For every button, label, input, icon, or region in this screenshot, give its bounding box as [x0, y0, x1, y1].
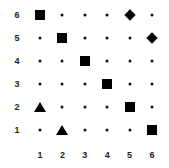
dot-marker-icon	[128, 37, 131, 40]
marker-grid-diagram: 654321123456	[0, 0, 169, 168]
dot-marker-icon	[83, 83, 86, 86]
dot-marker-icon	[151, 106, 154, 109]
dot-marker-icon	[39, 60, 42, 63]
row-label: 3	[14, 80, 19, 89]
square-marker-icon	[102, 79, 112, 89]
dot-marker-icon	[128, 83, 131, 86]
dot-marker-icon	[83, 14, 86, 17]
dot-marker-icon	[39, 37, 42, 40]
dot-marker-icon	[83, 129, 86, 132]
square-marker-icon	[80, 56, 90, 66]
row-label: 2	[14, 103, 19, 112]
dot-marker-icon	[151, 83, 154, 86]
column-label: 1	[37, 151, 42, 160]
dot-marker-icon	[128, 60, 131, 63]
dot-marker-icon	[83, 106, 86, 109]
dot-marker-icon	[61, 14, 64, 17]
column-label: 2	[60, 151, 65, 160]
column-label: 4	[105, 151, 110, 160]
triangle-marker-icon	[34, 102, 46, 112]
triangle-marker-icon	[56, 125, 68, 135]
dot-marker-icon	[61, 106, 64, 109]
row-label: 4	[14, 57, 19, 66]
square-marker-icon	[147, 125, 157, 135]
dot-marker-icon	[61, 83, 64, 86]
dot-marker-icon	[106, 106, 109, 109]
column-label: 6	[149, 151, 154, 160]
dot-marker-icon	[106, 60, 109, 63]
diamond-marker-icon	[124, 9, 135, 20]
dot-marker-icon	[106, 129, 109, 132]
dot-marker-icon	[128, 129, 131, 132]
dot-marker-icon	[83, 37, 86, 40]
row-label: 1	[14, 126, 19, 135]
square-marker-icon	[57, 33, 67, 43]
dot-marker-icon	[151, 60, 154, 63]
dot-marker-icon	[61, 60, 64, 63]
row-label: 5	[14, 34, 19, 43]
diamond-marker-icon	[146, 32, 157, 43]
dot-marker-icon	[151, 14, 154, 17]
row-label: 6	[14, 11, 19, 20]
dot-marker-icon	[106, 14, 109, 17]
dot-marker-icon	[39, 129, 42, 132]
dot-marker-icon	[39, 83, 42, 86]
column-label: 5	[127, 151, 132, 160]
square-marker-icon	[125, 102, 135, 112]
dot-marker-icon	[106, 37, 109, 40]
column-label: 3	[82, 151, 87, 160]
square-marker-icon	[35, 10, 45, 20]
